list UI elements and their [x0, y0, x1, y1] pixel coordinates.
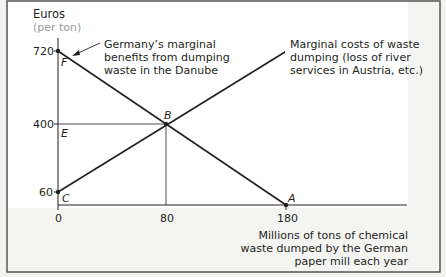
mb-annotation-line2: benefits from dumping: [104, 51, 230, 64]
mc-annotation-line1: Marginal costs of waste: [290, 38, 420, 51]
x-tick-180: 180: [277, 212, 298, 225]
x-axis-label-line3: paper mill each year: [295, 255, 408, 268]
y-tick-60: 60: [39, 186, 53, 199]
y-axis-label: Euros: [33, 8, 65, 21]
x-axis-label-line1: Millions of tons of chemical: [259, 229, 409, 242]
x-tick-0: 0: [55, 212, 62, 225]
mc-annotation-line2: dumping (loss of river: [290, 51, 411, 64]
point-f-label: F: [61, 56, 67, 69]
mb-annotation-line1: Germany’s marginal: [104, 38, 216, 51]
x-tick-80: 80: [160, 212, 174, 225]
point-b-label: B: [164, 109, 172, 122]
mc-annotation-line3: services in Austria, etc.): [290, 64, 423, 77]
y-tick-720: 720: [33, 45, 54, 58]
chart-frame: Euros (per ton) 720 400 60 0 80 180 F E …: [0, 0, 446, 277]
point-a-label: A: [288, 192, 296, 205]
y-axis-sublabel: (per ton): [33, 21, 81, 34]
point-e-label: E: [61, 127, 68, 140]
x-axis-label-line2: waste dumped by the German: [240, 242, 408, 255]
point-c-label: C: [62, 192, 70, 205]
y-tick-400: 400: [33, 118, 54, 131]
mb-annotation-line3: waste in the Danube: [104, 64, 218, 77]
